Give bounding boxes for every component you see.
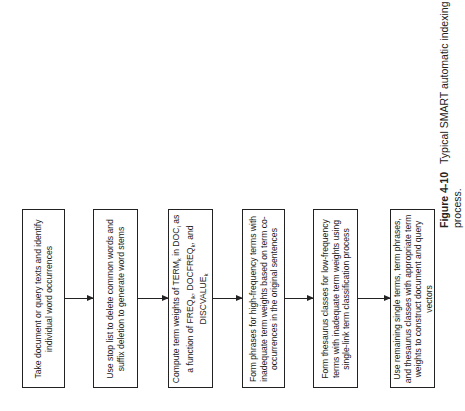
step-box-4: Form phrases for high-frequency terms wi… [242,209,285,388]
arrow-3-4 [213,298,242,299]
step-text-3: Compute term weights of TERMk in DOCi as… [170,211,211,386]
arrow-2-3 [138,298,168,299]
figure-label: Figure 4-10 [438,172,450,228]
arrow-1-2 [65,298,93,299]
step-text-6: Use remaining single terms, term phrases… [391,211,433,386]
arrow-5-6 [358,298,390,299]
step-box-2: Use stop list to delete common words and… [93,209,138,388]
step-text-2: Use stop list to delete common words and… [105,211,126,386]
step-text-1: Take document or query texts and identif… [33,211,54,386]
step-box-6: Use remaining single terms, term phrases… [390,209,435,388]
step-box-5: Form thesaurus classes for low-frequency… [313,209,358,388]
arrow-4-5 [285,298,313,299]
step-box-3: Compute term weights of TERMk in DOCi as… [168,209,213,388]
step-text-4: Form phrases for high-frequency terms wi… [248,211,280,386]
step-box-1: Take document or query texts and identif… [22,209,65,388]
step-text-5: Form thesaurus classes for low-frequency… [320,211,352,386]
